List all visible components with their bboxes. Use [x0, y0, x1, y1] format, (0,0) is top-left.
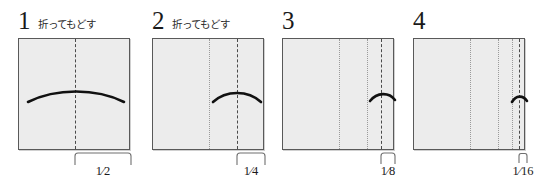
measure-4: 1⁄16 [518, 152, 528, 185]
step-caption-2: 折ってもどす [172, 19, 231, 33]
fraction-label-2: 1⁄4 [236, 164, 266, 178]
fraction-label-4: 1⁄16 [506, 164, 540, 178]
fraction-label-3: 1⁄8 [380, 164, 396, 178]
step-header-4: 4 [413, 8, 433, 38]
step-panel-4: 4 1⁄16 [413, 0, 533, 187]
step-number-4: 4 [413, 8, 426, 33]
step-panel-1: 1折ってもどす 1⁄2 [18, 0, 138, 187]
step-header-2: 2折ってもどす [152, 8, 231, 38]
measure-bracket-4 [518, 152, 528, 164]
origami-fold-sequence-diagram: 1折ってもどす 1⁄2 2折ってもどす [0, 0, 541, 187]
measure-1: 1⁄2 [74, 152, 132, 185]
step-panel-3: 3 1⁄8 [282, 0, 402, 187]
fold-arrow-2 [204, 80, 270, 114]
step-number-3: 3 [282, 8, 295, 33]
step-number-1: 1 [18, 8, 31, 33]
measure-2: 1⁄4 [236, 152, 266, 185]
step-header-1: 1折ってもどす [18, 8, 97, 38]
fold-arrow-1 [18, 80, 136, 114]
existing-crease-4-half [470, 39, 471, 149]
fraction-label-1: 1⁄2 [74, 164, 132, 178]
step-number-2: 2 [152, 8, 165, 33]
existing-crease-3-half [339, 39, 340, 149]
fold-arrow-4 [505, 86, 533, 112]
existing-crease-4-quarter [498, 39, 499, 149]
step-panel-2: 2折ってもどす 1⁄4 [152, 0, 272, 187]
step-header-3: 3 [282, 8, 302, 38]
fold-arrow-3 [362, 82, 402, 112]
measure-3: 1⁄8 [380, 152, 396, 185]
step-caption-1: 折ってもどす [38, 19, 97, 33]
